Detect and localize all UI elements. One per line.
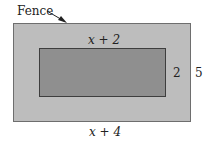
outer-height-label: 5 [195, 67, 203, 79]
fence-label: Fence [17, 5, 53, 17]
outer-width-label: x + 4 [89, 126, 121, 138]
inner-height-label: 2 [173, 67, 181, 79]
inner-width-label: x + 2 [88, 34, 120, 46]
